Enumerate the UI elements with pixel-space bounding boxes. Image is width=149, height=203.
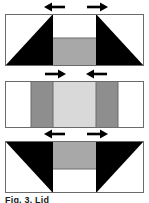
panel-middle <box>5 81 144 128</box>
band-outer-right <box>118 81 144 128</box>
figure-caption: Fig. 3. Lid <box>5 195 149 203</box>
panel-bottom-group <box>0 128 149 193</box>
panel-bottom <box>5 141 144 193</box>
arrow-left-icon <box>44 1 66 13</box>
center-top-block <box>53 14 96 38</box>
arrow-left-icon <box>44 128 66 140</box>
band-inner-right <box>96 81 118 128</box>
panel-bottom-arrow-row <box>0 128 149 140</box>
arrow-left-icon <box>86 68 108 80</box>
panel-top-arrow-row <box>0 1 149 13</box>
panel-top <box>5 14 144 66</box>
center-top-block <box>53 141 96 169</box>
center-bottom-block <box>53 169 96 193</box>
figure-container: Fig. 3. Lid <box>0 0 149 203</box>
panel-middle-arrow-row <box>0 68 149 80</box>
arrow-right-icon <box>44 68 66 80</box>
band-inner-left <box>31 81 53 128</box>
center-bottom-block <box>53 38 96 66</box>
panel-top-group <box>0 0 149 66</box>
arrow-right-icon <box>86 1 108 13</box>
band-center <box>53 81 96 128</box>
panel-middle-group <box>0 66 149 128</box>
arrow-right-icon <box>86 128 108 140</box>
